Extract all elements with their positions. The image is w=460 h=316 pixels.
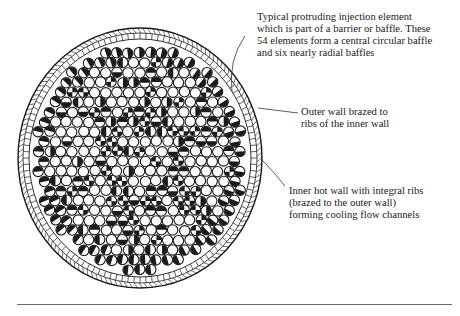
injection-element: [44, 166, 54, 176]
cooling-rib: [244, 201, 250, 203]
cooling-rib: [239, 101, 244, 104]
outer-wall-hatch: [51, 241, 52, 247]
baffle-element: [173, 175, 183, 185]
injection-element: [89, 67, 99, 77]
leader-line-inner: [262, 160, 285, 186]
injection-element: [128, 58, 138, 68]
element-outline: [167, 107, 177, 117]
injection-element: [56, 107, 66, 117]
injection-element: [167, 225, 177, 235]
outer-wall-hatch: [93, 38, 98, 41]
outer-wall-hatch: [154, 282, 158, 286]
cooling-rib: [49, 79, 54, 83]
injection-element: [90, 165, 100, 175]
injection-element: [189, 244, 201, 256]
outer-wall-hatch: [242, 91, 245, 97]
outer-wall-hatch: [208, 260, 214, 262]
injection-element: [140, 254, 150, 264]
baffle-element: [96, 136, 106, 146]
injection-element: [67, 147, 77, 157]
element-outline: [78, 166, 88, 176]
injection-element: [62, 195, 72, 205]
injection-element: [196, 97, 206, 107]
injection-element: [33, 146, 43, 156]
injection-element: [207, 156, 217, 166]
cooling-rib: [62, 65, 66, 69]
injection-element: [87, 244, 99, 256]
cooling-rib: [174, 271, 176, 277]
baffle-element: [190, 205, 200, 215]
outer-wall-hatch: [256, 142, 261, 146]
element-outline: [184, 215, 194, 225]
element-outline: [89, 127, 99, 137]
element-outline: [56, 127, 66, 137]
injection-element: [73, 195, 83, 205]
baffle-element: [184, 196, 194, 206]
element-outline: [173, 235, 183, 245]
injection-element: [78, 225, 88, 235]
injection-element: [39, 136, 50, 147]
outer-wall-hatch: [191, 270, 196, 273]
injection-element: [128, 176, 138, 186]
baffle-element: [129, 254, 139, 264]
outer-wall-hatch: [132, 28, 136, 33]
element-outline: [185, 77, 195, 87]
outer-wall-hatch: [246, 100, 249, 106]
figure-bottom-rule: [17, 304, 452, 305]
cooling-rib: [196, 261, 199, 266]
outer-wall-hatch: [18, 154, 23, 158]
injection-element: [84, 77, 94, 87]
element-outline: [83, 195, 93, 205]
element-outline: [111, 166, 121, 176]
injection-element: [78, 205, 88, 215]
element-outline: [83, 235, 93, 245]
baffle-element: [117, 235, 127, 245]
baffle-element: [73, 176, 83, 186]
cooling-rib: [24, 145, 30, 146]
injection-element: [78, 166, 88, 176]
element-outline: [185, 156, 195, 166]
element-outline: [67, 107, 77, 117]
injection-element: [145, 264, 156, 275]
injection-element: [234, 166, 245, 177]
cooling-rib: [31, 113, 37, 115]
injection-element: [213, 147, 223, 157]
outer-wall-hatch: [48, 237, 50, 243]
outer-wall-hatch: [158, 281, 162, 285]
element-outline: [79, 146, 89, 156]
injection-element: [89, 224, 99, 234]
outer-wall-hatch: [224, 65, 225, 71]
injection-element: [50, 175, 60, 185]
outer-wall-hatch: [44, 233, 46, 239]
baffle-element: [112, 127, 122, 137]
outer-wall-hatch: [139, 283, 143, 288]
injection-element: [140, 176, 150, 186]
injection-element: [151, 235, 161, 245]
element-outline: [73, 136, 83, 146]
injection-element: [235, 126, 246, 137]
cooling-rib: [236, 96, 241, 99]
cooling-rib: [42, 223, 47, 226]
element-outline: [150, 175, 160, 185]
injection-element: [196, 116, 206, 126]
baffle-element: [151, 117, 161, 127]
cooling-rib: [57, 70, 61, 74]
element-outline: [190, 146, 200, 156]
injection-element: [213, 107, 223, 117]
outer-wall-hatch: [228, 69, 229, 75]
cooling-rib: [29, 195, 35, 197]
outer-wall-hatch: [88, 40, 93, 43]
injection-element: [101, 185, 111, 195]
injection-element: [146, 126, 156, 136]
outer-wall-hatch: [168, 279, 173, 283]
injection-element: [73, 136, 83, 146]
cooling-rib: [200, 53, 203, 58]
baffle-element: [173, 156, 183, 166]
element-outline: [174, 215, 184, 225]
injection-element: [140, 216, 150, 226]
cooling-rib: [62, 246, 66, 250]
element-outline: [162, 77, 172, 87]
cooling-rib: [71, 57, 75, 62]
element-outline: [207, 97, 217, 107]
baffle-element: [140, 116, 150, 126]
